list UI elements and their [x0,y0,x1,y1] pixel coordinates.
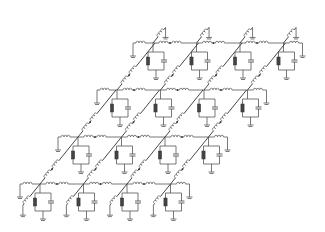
junction-dot [215,74,217,76]
resistor-icon [110,104,113,112]
inductor-icon [224,113,227,116]
inductor-icon [90,182,99,184]
inductor-icon [203,41,212,43]
inductor-icon [216,123,219,126]
wire [284,37,289,43]
inductor-icon [97,135,106,137]
junction-dot [133,89,135,91]
inductor-icon [220,66,223,69]
inductor-icon [186,160,189,163]
junction-dot [51,168,53,170]
circuit-diagram [0,0,325,232]
resistor-icon [277,57,280,65]
junction-dot [220,89,222,91]
inductor-icon [180,88,189,90]
resistor-icon [233,57,236,65]
resistor-icon [202,151,205,159]
inductor-icon [159,41,168,43]
wire [209,131,214,137]
inductor-icon [204,29,207,32]
wire [266,43,285,67]
inductor-icon [259,41,268,43]
inductor-icon [143,160,146,163]
inductor-icon [133,66,136,69]
resistor-icon [33,198,36,206]
junction-dot [89,121,91,123]
wire [171,178,176,184]
wire [136,43,155,67]
inductor-icon [135,170,138,173]
resistor-icon [197,104,200,112]
inductor-icon [176,66,179,69]
inductor-icon [100,88,109,90]
wire [161,84,166,90]
wire [78,131,83,137]
junction-dot [133,121,135,123]
resistor-icon [164,198,167,206]
inductor-icon [91,170,94,173]
resistor-icon [120,198,123,206]
inductor-icon [27,196,30,199]
inductor-icon [178,170,181,173]
junction-dot [259,74,261,76]
resistor-icon [154,104,157,112]
inductor-icon [84,135,93,137]
wire [179,43,198,67]
junction-dot [172,74,174,76]
inductor-icon [137,113,140,116]
inductor-icon [129,123,132,126]
lattice-svg [0,0,325,232]
inductor-icon [86,123,89,126]
wire [248,84,253,90]
wire [23,204,24,206]
inductor-icon [181,113,184,116]
inductor-icon [215,135,224,137]
resistor-icon [115,151,118,159]
inductor-icon [70,196,73,199]
junction-dot [169,42,171,44]
wire [110,204,111,206]
junction-dot [128,74,130,76]
resistor-icon [146,57,149,65]
inductor-icon [212,76,215,79]
junction-dot [94,136,96,138]
wire [127,178,132,184]
inductor-icon [125,76,128,79]
wire [146,137,165,161]
inductor-icon [59,182,68,184]
wire [240,37,245,43]
inductor-icon [123,88,132,90]
junction-dot [176,121,178,123]
wire [102,137,121,161]
inductor-icon [216,41,225,43]
inductor-icon [128,135,137,137]
inductor-icon [133,182,142,184]
inductor-icon [136,88,145,90]
resistor-icon [77,198,80,206]
inductor-icon [172,41,181,43]
inductor-icon [223,88,232,90]
resistor-icon [190,57,193,65]
wire [59,137,78,161]
junction-dot [256,42,258,44]
wire [197,37,202,43]
inductor-icon [171,135,180,137]
inductor-icon [168,76,171,79]
wire [204,84,209,90]
junction-dot [177,89,179,91]
inductor-icon [114,196,117,199]
junction-dot [143,183,145,185]
junction-dot [100,183,102,185]
inductor-icon [141,135,150,137]
wire [66,204,67,206]
resistor-icon [158,151,161,159]
inductor-icon [46,182,55,184]
inductor-icon [177,182,186,184]
inductor-icon [157,196,160,199]
wire [122,131,127,137]
inductor-icon [246,41,255,43]
inductor-icon [210,88,219,90]
junction-dot [181,136,183,138]
inductor-icon [146,182,155,184]
resistor-icon [241,104,244,112]
